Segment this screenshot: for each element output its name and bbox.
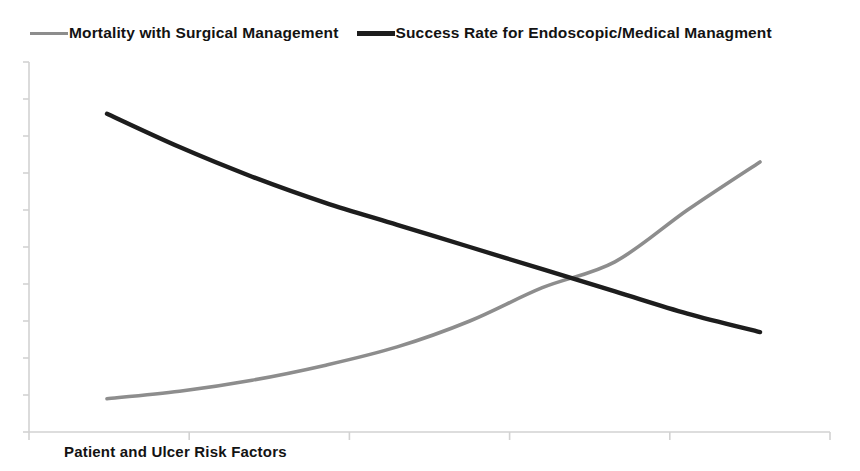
series-group [107, 114, 760, 399]
series-line-mortality [107, 162, 760, 399]
plot-svg [0, 0, 860, 471]
plot-area [0, 0, 860, 471]
series-line-success-rate [107, 114, 760, 332]
line-chart: Mortality with Surgical Management Succe… [0, 0, 860, 471]
axis-group [23, 62, 830, 440]
y-axis-ticks [23, 62, 29, 432]
x-axis-ticks [29, 432, 830, 440]
x-axis-title: Patient and Ulcer Risk Factors [64, 444, 287, 459]
